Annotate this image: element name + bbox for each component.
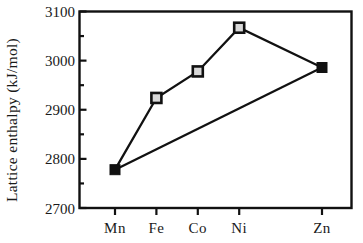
marker-open-square <box>151 93 161 103</box>
x-tick-label: Ni <box>231 220 247 236</box>
marker-open-square <box>234 23 244 33</box>
x-tick-label: Fe <box>148 220 164 236</box>
y-tick-label: 2900 <box>45 102 75 118</box>
y-tick-label: 3100 <box>45 4 75 20</box>
lattice-enthalpy-line-chart: Lattice enthalpy (kJ/mol) 27002800290030… <box>0 0 363 243</box>
x-tick-label: Zn <box>313 220 331 236</box>
marker-filled-square <box>110 165 120 175</box>
chart-figure: Lattice enthalpy (kJ/mol) 27002800290030… <box>0 0 363 243</box>
marker-open-square <box>193 66 203 76</box>
marker-filled-square <box>317 63 327 73</box>
y-tick-label: 3000 <box>45 53 75 69</box>
y-tick-label: 2800 <box>45 151 75 167</box>
y-axis-title: Lattice enthalpy (kJ/mol) <box>3 38 21 202</box>
y-tick-label: 2700 <box>45 201 75 217</box>
x-tick-label: Mn <box>104 220 126 236</box>
x-tick-label: Co <box>189 220 208 236</box>
